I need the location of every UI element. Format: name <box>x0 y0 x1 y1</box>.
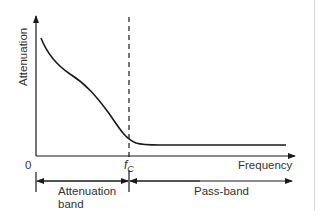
attenuation-diagram <box>0 0 316 211</box>
origin-label: 0 <box>25 160 31 172</box>
right-border <box>314 0 315 211</box>
attenuation-band-label-line1: Attenuation <box>58 186 116 198</box>
y-axis-label: Attenuation <box>18 28 30 86</box>
attenuation-curve <box>41 38 286 145</box>
pass-band-label: Pass-band <box>194 186 249 198</box>
attenuation-band-label-line2: band <box>58 199 84 211</box>
x-axis-label: Frequency <box>238 160 292 172</box>
cutoff-frequency-label: fC <box>124 159 134 174</box>
cutoff-subscript: C <box>127 164 134 174</box>
